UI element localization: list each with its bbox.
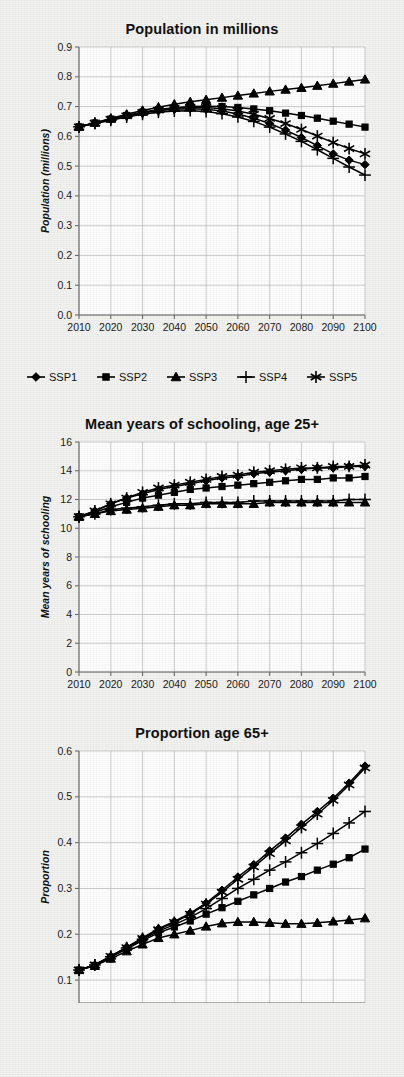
- marker-square: [235, 898, 241, 904]
- x-tick-label: 2080: [290, 321, 314, 333]
- y-tick-label: 6: [66, 579, 72, 591]
- y-tick-label: 0.9: [57, 40, 72, 52]
- y-tick-label: 0.8: [57, 70, 72, 82]
- y-tick-label: 2: [66, 636, 72, 648]
- legend-label: SSP5: [329, 371, 357, 383]
- y-tick-label: 0.2: [57, 249, 72, 261]
- x-tick-label: 2060: [226, 321, 250, 333]
- x-tick-label: 2100: [353, 321, 377, 333]
- y-axis-title: Proportion: [39, 850, 51, 904]
- marker-square: [362, 473, 368, 479]
- x-tick-label: 2040: [163, 678, 187, 690]
- y-tick-label: 0.3: [57, 882, 72, 894]
- x-tick-label: 2030: [131, 321, 155, 333]
- y-tick-label: 0.1: [57, 973, 72, 985]
- y-tick-label: 0: [66, 665, 72, 677]
- chart-panel-schooling: Mean years of schooling, age 25+ 0246810…: [0, 403, 404, 708]
- y-axis-title: Population (millions): [39, 128, 51, 232]
- marker-square: [219, 904, 225, 910]
- x-tick-label: 2010: [67, 678, 91, 690]
- x-tick-label: 2090: [322, 678, 346, 690]
- chart-title-schooling: Mean years of schooling, age 25+: [0, 403, 404, 432]
- marker-square: [314, 867, 320, 873]
- marker-square: [330, 861, 336, 867]
- x-tick-label: 2090: [322, 321, 346, 333]
- marker-square: [298, 476, 304, 482]
- marker-square: [103, 374, 109, 380]
- legend-item-SSP1[interactable]: SSP1: [27, 371, 77, 383]
- y-tick-label: 0.6: [57, 129, 72, 141]
- marker-plus: [240, 371, 252, 383]
- x-tick-label: 2070: [258, 678, 282, 690]
- y-tick-label: 0.5: [57, 159, 72, 171]
- y-tick-label: 0.2: [57, 927, 72, 939]
- x-tick-label: 2020: [99, 678, 123, 690]
- marker-square: [282, 878, 288, 884]
- legend-label: SSP1: [49, 371, 77, 383]
- y-tick-label: 0.5: [57, 790, 72, 802]
- marker-square: [267, 479, 273, 485]
- marker-square: [251, 891, 257, 897]
- marker-square: [219, 483, 225, 489]
- y-tick-label: 0.4: [57, 836, 72, 848]
- legend-item-SSP4[interactable]: SSP4: [237, 371, 287, 383]
- legend-item-SSP2[interactable]: SSP2: [97, 371, 147, 383]
- marker-square: [346, 121, 352, 127]
- y-tick-label: 4: [66, 608, 72, 620]
- x-tick-label: 2040: [163, 321, 187, 333]
- marker-square: [203, 484, 209, 490]
- y-tick-label: 16: [60, 435, 72, 447]
- chart-panel-population: Population in millions 0.00.10.20.30.40.…: [0, 0, 404, 355]
- plot-area: [79, 47, 365, 315]
- y-axis-title: Mean years of schooling: [39, 495, 51, 618]
- x-tick-label: 2080: [290, 678, 314, 690]
- x-tick-label: 2050: [194, 678, 218, 690]
- legend-svg: SSP1SSP2SSP3SSP4SSP5: [0, 355, 404, 395]
- chart-title-proportion65: Proportion age 65+: [0, 708, 404, 741]
- legend-label: SSP2: [119, 371, 147, 383]
- legend-item-SSP3[interactable]: SSP3: [167, 371, 217, 383]
- x-tick-label: 2010: [67, 321, 91, 333]
- legend: SSP1SSP2SSP3SSP4SSP5: [0, 355, 404, 403]
- y-tick-label: 0.6: [57, 744, 72, 756]
- marker-square: [330, 474, 336, 480]
- marker-square: [282, 110, 288, 116]
- marker-square: [314, 115, 320, 121]
- x-tick-label: 2070: [258, 321, 282, 333]
- x-tick-label: 2060: [226, 678, 250, 690]
- x-tick-label: 2020: [99, 321, 123, 333]
- marker-diamond: [32, 373, 41, 382]
- marker-square: [267, 885, 273, 891]
- chart-svg-population: 0.00.10.20.30.40.50.60.70.80.92010202020…: [0, 37, 404, 355]
- marker-square: [362, 845, 368, 851]
- legend-label: SSP3: [189, 371, 217, 383]
- marker-square: [330, 118, 336, 124]
- y-tick-label: 0.7: [57, 100, 72, 112]
- plot-area: [79, 751, 365, 1003]
- y-tick-label: 10: [60, 521, 72, 533]
- chart-svg-schooling: 0246810121416201020202030204020502060207…: [0, 432, 404, 712]
- marker-square: [362, 124, 368, 130]
- y-tick-label: 14: [60, 464, 72, 476]
- marker-square: [235, 482, 241, 488]
- chart-panel-proportion65: Proportion age 65+ 0.10.20.30.40.50.6Pro…: [0, 708, 404, 1008]
- x-tick-label: 2030: [131, 678, 155, 690]
- marker-square: [282, 477, 288, 483]
- legend-label: SSP4: [259, 371, 287, 383]
- y-tick-label: 0.0: [57, 308, 72, 320]
- y-tick-label: 0.1: [57, 278, 72, 290]
- figure-page: Population in millions 0.00.10.20.30.40.…: [0, 0, 404, 1077]
- marker-square: [298, 873, 304, 879]
- marker-square: [298, 112, 304, 118]
- marker-square: [251, 480, 257, 486]
- y-tick-label: 0.3: [57, 219, 72, 231]
- x-tick-label: 2100: [353, 678, 377, 690]
- y-tick-label: 0.4: [57, 189, 72, 201]
- y-tick-label: 12: [60, 493, 72, 505]
- y-tick-label: 8: [66, 550, 72, 562]
- legend-item-SSP5[interactable]: SSP5: [307, 371, 357, 383]
- x-tick-label: 2050: [194, 321, 218, 333]
- chart-title-population: Population in millions: [0, 0, 404, 37]
- marker-square: [346, 854, 352, 860]
- marker-square: [314, 476, 320, 482]
